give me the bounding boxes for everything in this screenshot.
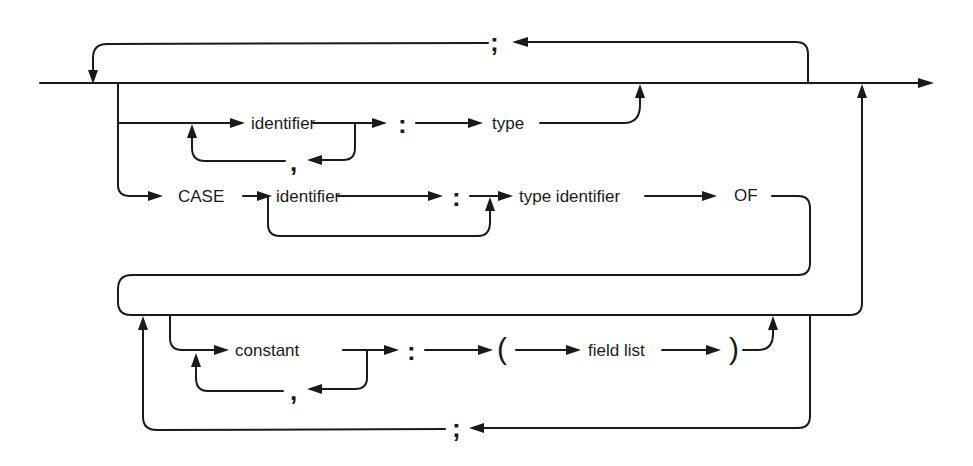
top-loop-left bbox=[93, 43, 488, 74]
top-loop-arrow-icon bbox=[512, 37, 528, 47]
row1-comma-loop-right bbox=[320, 123, 355, 160]
row2-of-arrow-icon bbox=[702, 191, 717, 201]
type-identifier-label: type identifier bbox=[519, 188, 620, 205]
row1-exit-curve bbox=[540, 96, 640, 123]
exit-arrow-icon bbox=[918, 78, 934, 88]
row3-comma-loop-right bbox=[320, 350, 367, 389]
variant-exit-up-arrow-icon bbox=[857, 84, 867, 98]
row1-exit-up-arrow-icon bbox=[635, 84, 645, 98]
close-paren: ) bbox=[729, 334, 739, 364]
row2-skip-up-arrow-icon bbox=[485, 197, 495, 211]
row1-colon: : bbox=[398, 111, 407, 137]
bottom-loop-up-arrow-icon bbox=[138, 316, 148, 330]
constant-label: constant bbox=[235, 342, 299, 359]
top-loop-semicolon: ; bbox=[490, 29, 499, 55]
case-keyword: CASE bbox=[178, 188, 224, 205]
of-keyword: OF bbox=[734, 187, 758, 204]
row3-exit-curve bbox=[743, 328, 773, 350]
row1-loop-up-arrow-icon bbox=[187, 124, 197, 138]
row1-arrow-icon bbox=[230, 118, 245, 128]
top-loop-right bbox=[520, 42, 808, 83]
bottom-loop-arrow-icon bbox=[469, 423, 484, 433]
row3-comma: , bbox=[290, 378, 297, 404]
row1-comma-loop-left bbox=[192, 136, 285, 161]
row2-colon-arrow-icon bbox=[428, 191, 443, 201]
row1-identifier-label: identifier bbox=[251, 115, 315, 132]
row3-close-paren-arrow-icon bbox=[706, 345, 721, 355]
row3-entry-line bbox=[170, 315, 216, 350]
row2-identifier-label: identifier bbox=[276, 188, 340, 205]
row2-colon: : bbox=[452, 184, 461, 210]
row3-colon-arrow-icon bbox=[384, 345, 399, 355]
row3-colon: : bbox=[407, 338, 416, 364]
row1-colon-arrow-icon bbox=[372, 118, 387, 128]
row3-loop-up-arrow-icon bbox=[191, 353, 201, 367]
row3-comma-arrow-icon bbox=[307, 384, 322, 394]
row2-type-identifier-arrow-icon bbox=[498, 191, 513, 201]
row3-exit-up-arrow-icon bbox=[768, 316, 778, 330]
row3-comma-loop-left bbox=[196, 366, 283, 391]
row1-comma-arrow-icon bbox=[307, 155, 322, 165]
bottom-loop-semicolon: ; bbox=[452, 415, 461, 441]
open-paren: ( bbox=[497, 334, 507, 364]
row3-constant-arrow-icon bbox=[214, 345, 229, 355]
syntax-diagram-lines bbox=[0, 0, 973, 466]
row1-type-arrow-icon bbox=[468, 118, 483, 128]
row1-comma: , bbox=[290, 149, 297, 175]
row2-identifier-arrow-icon bbox=[257, 191, 272, 201]
row1-type-label: type bbox=[492, 115, 524, 132]
branch-left-vertical bbox=[118, 83, 150, 196]
row3-field-list-arrow-icon bbox=[566, 345, 581, 355]
case-arrow-icon bbox=[148, 191, 163, 201]
row3-paren-arrow-icon bbox=[478, 345, 493, 355]
field-list-label: field list bbox=[588, 342, 645, 359]
bottom-loop-right bbox=[480, 315, 810, 428]
top-loop-down-arrow-icon bbox=[88, 70, 98, 84]
row2-of-exit-bracket bbox=[772, 196, 810, 275]
